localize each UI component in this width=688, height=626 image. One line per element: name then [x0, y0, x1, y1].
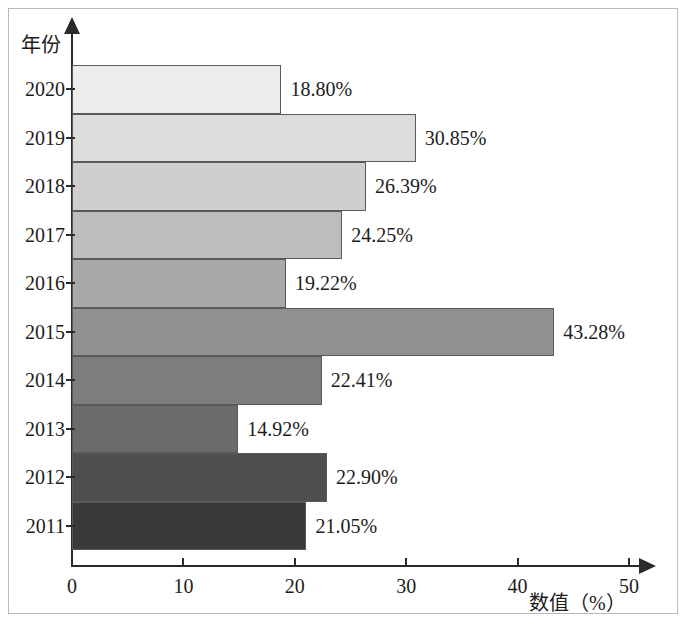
y-axis-tick-mark: [66, 282, 75, 284]
x-axis-tick-mark: [405, 558, 407, 566]
y-axis-tick-label: 2019: [9, 126, 65, 149]
x-axis-tick-mark: [294, 558, 296, 566]
y-axis-tick-mark: [66, 476, 75, 478]
bar-value-label: 21.05%: [315, 514, 377, 537]
bar: [72, 453, 327, 502]
x-axis-title: 数值（%）: [529, 587, 626, 616]
y-axis-tick-mark: [66, 137, 75, 139]
y-axis-tick-mark: [66, 88, 75, 90]
bar-value-label: 19.22%: [295, 272, 357, 295]
y-axis-tick-label: 2018: [9, 175, 65, 198]
bar-value-label: 30.85%: [425, 126, 487, 149]
x-axis-tick-label: 50: [619, 575, 639, 598]
bar-value-label: 14.92%: [247, 417, 309, 440]
bar: [72, 65, 281, 114]
y-axis-tick-mark: [66, 331, 75, 333]
bar-value-label: 43.28%: [563, 320, 625, 343]
chart-figure-frame: 年份 数值（%） 18.80%30.85%26.39%24.25%19.22%4…: [8, 8, 678, 614]
bar-value-label: 22.41%: [331, 369, 393, 392]
x-axis-tick-label: 30: [396, 575, 416, 598]
y-axis-tick-mark: [66, 185, 75, 187]
x-axis-tick-label: 40: [508, 575, 528, 598]
y-axis-tick-label: 2012: [9, 466, 65, 489]
x-axis-arrow-icon: [639, 558, 656, 574]
bar: [72, 405, 238, 454]
x-axis-tick-label: 0: [67, 575, 77, 598]
x-axis-line: [71, 565, 641, 567]
y-axis-tick-label: 2013: [9, 417, 65, 440]
x-axis-tick-mark: [628, 558, 630, 566]
x-axis-tick-label: 10: [173, 575, 193, 598]
y-axis-tick-mark: [66, 525, 75, 527]
y-axis-tick-mark: [66, 379, 75, 381]
bar: [72, 308, 554, 357]
y-axis-tick-label: 2017: [9, 223, 65, 246]
bar: [72, 211, 342, 260]
bar-value-label: 24.25%: [351, 223, 413, 246]
bar-value-label: 18.80%: [290, 78, 352, 101]
y-axis-tick-label: 2014: [9, 369, 65, 392]
bar: [72, 162, 366, 211]
bar: [72, 259, 286, 308]
x-axis-tick-mark: [517, 558, 519, 566]
y-axis-tick-label: 2020: [9, 78, 65, 101]
bar-value-label: 22.90%: [336, 466, 398, 489]
x-axis-tick-label: 20: [285, 575, 305, 598]
y-axis-tick-label: 2015: [9, 320, 65, 343]
bar: [72, 356, 322, 405]
bar-value-label: 26.39%: [375, 175, 437, 198]
bar-chart-plot: 年份 数值（%） 18.80%30.85%26.39%24.25%19.22%4…: [9, 9, 679, 615]
y-axis-tick-mark: [66, 428, 75, 430]
x-axis-tick-mark: [182, 558, 184, 566]
bar: [72, 114, 416, 163]
y-axis-title: 年份: [21, 29, 61, 58]
y-axis-tick-label: 2016: [9, 272, 65, 295]
y-axis-tick-label: 2011: [9, 514, 65, 537]
y-axis-tick-mark: [66, 234, 75, 236]
bar: [72, 502, 306, 551]
